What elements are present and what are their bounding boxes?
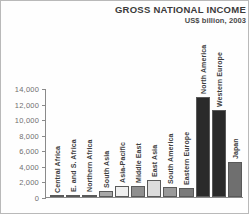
- bar-category-label: Eastern Europe: [183, 132, 190, 185]
- bar: [99, 191, 113, 197]
- bar-group: Central AfricaE. and S. AfricaNorthern A…: [46, 89, 242, 197]
- y-axis-tick-label: 12,000: [15, 100, 39, 109]
- chart-subtitle: US$ billion, 2003: [1, 16, 246, 26]
- bar-category-label: Central Africa: [54, 145, 61, 192]
- bar: [66, 195, 80, 197]
- bar: [115, 186, 129, 197]
- bar-category-label: Western Europe: [216, 52, 223, 107]
- bar: [131, 186, 145, 197]
- bar-column: Western Europe: [212, 89, 226, 197]
- bar-column: North America: [196, 89, 210, 197]
- bar-column: South America: [163, 89, 177, 197]
- page-title: GROSS NATIONAL INCOME: [1, 4, 246, 15]
- bar-column: Middle East: [131, 89, 145, 197]
- bar: [212, 110, 226, 197]
- bar-column: East Asia: [147, 89, 161, 197]
- bar-category-label: South Asia: [103, 151, 110, 188]
- y-axis-tick-label: 4,000: [19, 162, 39, 171]
- y-axis-tick-label: 2,000: [19, 178, 39, 187]
- y-axis-tick-label: 0: [35, 194, 39, 203]
- y-axis-tick-label: 8,000: [19, 131, 39, 140]
- bar-category-label: South America: [167, 133, 174, 183]
- y-axis-tick-label: 10,000: [15, 116, 39, 125]
- bar-category-label: North America: [200, 44, 207, 93]
- bar-column: Eastern Europe: [179, 89, 193, 197]
- bar-column: Asia-Pacific: [115, 89, 129, 197]
- bar-category-label: E. and S. Africa: [70, 140, 77, 193]
- bar: [50, 195, 64, 197]
- x-axis-line: [45, 197, 243, 198]
- bar-column: Northern Africa: [82, 89, 96, 197]
- bar-column: E. and S. Africa: [66, 89, 80, 197]
- bar-category-label: East Asia: [151, 145, 158, 177]
- bar: [179, 188, 193, 197]
- bar: [163, 187, 177, 197]
- plot-area: 14,00012,00010,0008,0006,0004,0002,0000 …: [45, 89, 243, 198]
- bar-column: South Asia: [99, 89, 113, 197]
- chart-title-block: GROSS NATIONAL INCOME US$ billion, 2003: [1, 4, 246, 26]
- bar-column: Japan: [228, 89, 242, 197]
- bar-category-label: Asia-Pacific: [119, 142, 126, 183]
- bar-category-label: Middle East: [135, 143, 142, 183]
- y-axis-tick-label: 6,000: [19, 147, 39, 156]
- bar: [228, 162, 242, 197]
- bar-column: Central Africa: [50, 89, 64, 197]
- bar-category-label: Northern Africa: [86, 139, 93, 192]
- chart-figure: GROSS NATIONAL INCOME US$ billion, 2003 …: [0, 0, 249, 214]
- y-axis-tick: [42, 198, 46, 199]
- bar: [147, 180, 161, 197]
- bar-category-label: Japan: [232, 138, 239, 159]
- bar: [82, 195, 96, 197]
- y-axis-tick-label: 14,000: [15, 85, 39, 94]
- bar: [196, 97, 210, 197]
